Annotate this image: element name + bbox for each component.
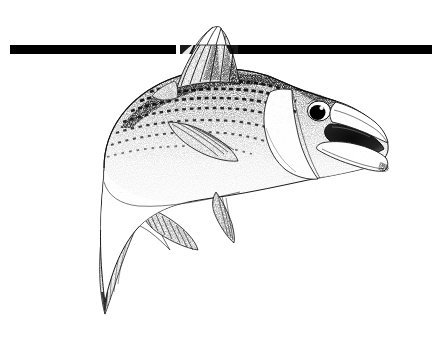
- rule-segment-right: [238, 45, 432, 54]
- rule-segment-left: [10, 45, 176, 54]
- striped-bass-illustration: [0, 0, 447, 338]
- illustration-canvas: Striped Bass Illustration Black-and-whit…: [0, 0, 447, 338]
